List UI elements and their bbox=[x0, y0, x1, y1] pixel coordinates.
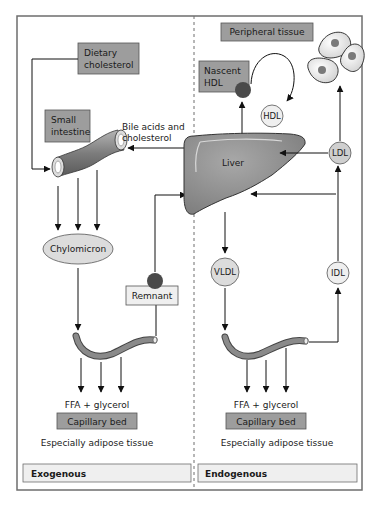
capillary-tube-endogenous bbox=[225, 337, 308, 356]
liver-label: Liver bbox=[222, 158, 244, 168]
intestine-label-line1: Small bbox=[51, 115, 76, 125]
nascent-to-hdl-arrow bbox=[251, 54, 294, 101]
endogenous-label: Endogenous bbox=[205, 469, 267, 479]
capillary-to-idl-arrow bbox=[309, 288, 338, 342]
capillary-bed-label-endo: Capillary bed bbox=[236, 417, 295, 427]
peripheral-tissue-label: Peripheral tissue bbox=[229, 27, 304, 37]
nascent-hdl-label-line1: Nascent bbox=[204, 66, 241, 76]
peripheral-cells-icon bbox=[308, 32, 364, 82]
peripheral-tissue-box: Peripheral tissue bbox=[221, 23, 313, 41]
ldl-label: LDL bbox=[332, 148, 348, 158]
remnant-particle-icon bbox=[147, 273, 163, 289]
exogenous-label: Exogenous bbox=[31, 469, 86, 479]
ffa-label-exo: FFA + glycerol bbox=[65, 400, 129, 410]
hdl-node: HDL bbox=[261, 105, 283, 127]
remnant-label: Remnant bbox=[132, 291, 173, 301]
dietary-cholesterol-box: Dietary cholesterol bbox=[78, 43, 139, 74]
nascent-hdl-particle-icon bbox=[235, 82, 251, 98]
ldl-node: LDL bbox=[329, 142, 351, 164]
lipoprotein-diagram: Dietary cholesterol Small intestine Bile… bbox=[0, 0, 375, 506]
intestine-label-line2: intestine bbox=[51, 127, 91, 137]
remnant-node: Remnant bbox=[126, 273, 178, 305]
remnant-to-liver-arrow bbox=[155, 195, 186, 272]
idl-node: IDL bbox=[327, 262, 349, 284]
vldl-label: VLDL bbox=[214, 267, 236, 277]
capillary-tube-exogenous bbox=[76, 336, 157, 356]
nascent-hdl-box: Nascent HDL bbox=[199, 61, 251, 98]
nascent-hdl-label-line2: HDL bbox=[204, 78, 223, 88]
endogenous-section-label: Endogenous bbox=[198, 464, 357, 482]
adipose-label-endo: Especially adipose tissue bbox=[221, 438, 334, 448]
dietary-label-line2: cholesterol bbox=[84, 60, 133, 70]
idl-label: IDL bbox=[331, 268, 345, 278]
bile-acids-label-line2: cholesterol bbox=[122, 133, 171, 143]
liver-organ: Liver bbox=[184, 133, 305, 214]
hdl-label: HDL bbox=[263, 111, 281, 121]
adipose-label-exo: Especially adipose tissue bbox=[41, 438, 154, 448]
chylomicron-node: Chylomicron bbox=[43, 234, 113, 264]
ffa-label-endo: FFA + glycerol bbox=[234, 400, 298, 410]
capillary-bed-label-exo: Capillary bed bbox=[67, 417, 126, 427]
small-intestine-box: Small intestine bbox=[45, 110, 91, 142]
chylomicron-label: Chylomicron bbox=[50, 244, 106, 254]
capillary-bed-box-exo: Capillary bed bbox=[57, 413, 137, 429]
vldl-node: VLDL bbox=[211, 258, 239, 286]
exogenous-section-label: Exogenous bbox=[23, 464, 191, 482]
bile-acids-label-line1: Bile acids and bbox=[122, 122, 185, 132]
capillary-bed-box-endo: Capillary bed bbox=[226, 413, 306, 429]
dietary-label-line1: Dietary bbox=[84, 48, 118, 58]
